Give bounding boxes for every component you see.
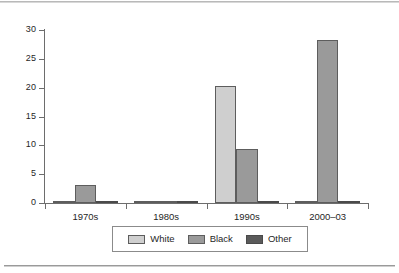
bar-white-1970s [53,201,75,203]
figure-frame: 051015202530 1970s1980s1990s2000–03 Whit… [0,0,399,273]
x-tick-mark [45,204,46,209]
legend-label: White [150,234,174,244]
bar-white-1980s [134,201,156,203]
bar-black-1990s [236,149,258,203]
y-tick-label: 20 [0,83,36,92]
legend-swatch-icon [128,235,145,244]
plot-area [45,30,368,203]
bottom-divider-rule [4,265,395,267]
bar-other-200003 [338,201,360,203]
x-tick-label: 2000–03 [287,211,368,222]
y-tick-label: 5 [0,169,36,178]
x-tick-mark [287,204,288,209]
y-tick-label: 10 [0,140,36,149]
x-tick-mark [126,204,127,209]
legend-item-white[interactable]: White [128,234,174,244]
legend-item-other[interactable]: Other [246,234,292,244]
legend-swatch-icon [246,235,263,244]
y-tick-label: 0 [0,198,36,207]
x-tick-mark [207,204,208,209]
legend-item-black[interactable]: Black [188,234,233,244]
bar-black-1970s [75,185,97,203]
bar-black-200003 [317,40,339,203]
legend-label: Black [210,234,233,244]
x-tick-mark [368,204,369,209]
bar-white-200003 [295,201,317,203]
x-tick-label: 1970s [45,211,126,222]
x-tick-label: 1990s [207,211,288,222]
legend-swatch-icon [188,235,205,244]
bar-black-1980s [155,201,177,203]
y-tick-label: 25 [0,54,36,63]
bar-other-1970s [96,201,118,203]
bar-other-1980s [177,201,199,203]
chart-legend: WhiteBlackOther [112,226,308,252]
bar-other-1990s [258,201,280,203]
y-tick-label: 15 [0,112,36,121]
bar-white-1990s [215,86,237,203]
y-tick-label: 30 [0,25,36,34]
x-tick-label: 1980s [126,211,207,222]
legend-label: Other [268,234,292,244]
